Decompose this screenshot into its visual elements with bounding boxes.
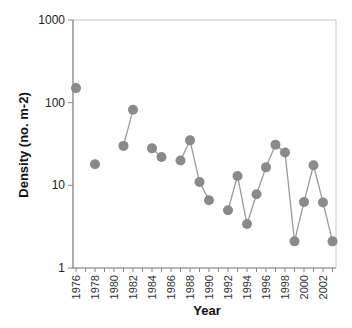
data-point (157, 152, 167, 162)
x-axis-title: Year (193, 303, 220, 318)
data-point (223, 205, 233, 215)
x-tick-label: 1996 (260, 275, 272, 299)
data-point (119, 141, 129, 151)
data-point (185, 135, 195, 145)
x-tick-label: 1990 (203, 275, 215, 299)
data-point (280, 147, 290, 157)
data-point (176, 155, 186, 165)
x-axis-ticks: 1976197819801982198419861988199019921994… (70, 268, 333, 299)
data-point (128, 105, 138, 115)
data-point (147, 143, 157, 153)
y-tick-label: 1 (58, 261, 65, 275)
x-tick-label: 1982 (127, 275, 139, 299)
x-tick-label: 1986 (165, 275, 177, 299)
y-tick-label: 1000 (38, 13, 65, 27)
data-point (299, 197, 309, 207)
x-tick-label: 1998 (279, 275, 291, 299)
x-tick-label: 1978 (89, 275, 101, 299)
x-tick-label: 1984 (146, 275, 158, 299)
y-tick-label: 10 (52, 178, 66, 192)
y-tick-label: 100 (45, 96, 65, 110)
data-point (195, 177, 205, 187)
data-point (71, 83, 81, 93)
x-tick-label: 1994 (241, 275, 253, 299)
density-chart: 1101001000 19761978198019821984198619881… (0, 0, 352, 328)
x-tick-label: 1988 (184, 275, 196, 299)
data-point (318, 197, 328, 207)
x-tick-label: 2000 (298, 275, 310, 299)
y-axis-ticks: 1101001000 (38, 13, 73, 275)
data-point (204, 195, 214, 205)
data-point (242, 219, 252, 229)
data-point (261, 162, 271, 172)
data-point (90, 159, 100, 169)
x-tick-label: 1976 (70, 275, 82, 299)
x-tick-label: 1980 (108, 275, 120, 299)
y-axis-title: Density (no. m-2) (16, 92, 31, 197)
data-point (328, 236, 338, 246)
data-point (290, 236, 300, 246)
data-point (309, 160, 319, 170)
x-tick-label: 1992 (222, 275, 234, 299)
data-point (252, 189, 262, 199)
data-point (271, 140, 281, 150)
data-point (233, 171, 243, 181)
x-tick-label: 2002 (317, 275, 329, 299)
